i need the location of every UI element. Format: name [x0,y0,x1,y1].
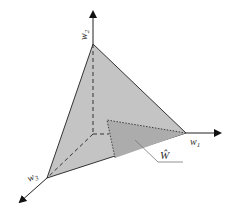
w-hat-label: Ŵ [160,149,170,161]
w2-label: w2 [78,29,91,40]
simplex-diagram: w2 w1 w3 Ŵ [0,0,232,218]
w3-label: w3 [25,169,40,185]
w1-label: w1 [190,136,200,149]
